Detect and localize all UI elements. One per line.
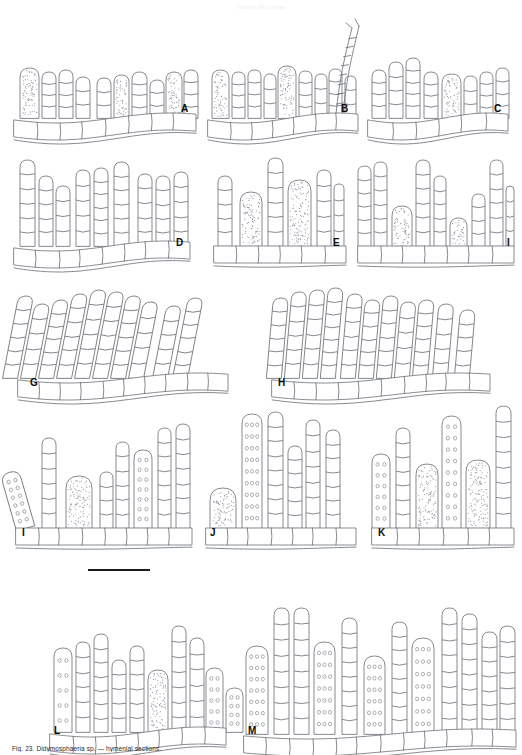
panel-label-k-4: K	[378, 528, 385, 538]
panel-k-4	[372, 394, 522, 552]
panel-c-1	[368, 38, 522, 142]
scale-bar-line	[88, 569, 150, 571]
panel-d-2	[14, 136, 204, 270]
panel-label-g-3: G	[30, 378, 38, 388]
panel-label-i-2: I	[507, 238, 510, 248]
panel-l-5	[50, 588, 240, 755]
panel-label-c-1: C	[494, 104, 501, 114]
scale-bar	[88, 568, 150, 572]
panel-b-1	[208, 24, 372, 142]
panel-label-d-2: D	[176, 238, 183, 248]
panel-label-m-5: M	[248, 726, 256, 736]
panel-i-4	[16, 398, 206, 552]
panel-label-l-5: L	[54, 726, 60, 736]
panel-label-b-1: B	[341, 104, 348, 114]
panel-h-3	[272, 268, 504, 402]
panel-label-h-3: H	[278, 378, 285, 388]
panel-m-5	[244, 574, 522, 755]
panel-label-i-4: I	[22, 528, 25, 538]
panel-label-a-1: A	[181, 104, 188, 114]
panel-e-2	[214, 138, 360, 270]
panel-i-2	[358, 138, 522, 270]
panel-label-e-2: E	[333, 238, 340, 248]
panel-label-j-4: J	[210, 528, 216, 538]
panel-g-3	[18, 268, 242, 402]
panel-j-4	[206, 394, 370, 552]
figure-caption: Fig. 23. Didymosphaeria sp. — hymenial s…	[12, 745, 432, 752]
panel-a-1	[14, 44, 210, 142]
figure-plate: ABCDEIGHIJKLM	[0, 0, 522, 755]
